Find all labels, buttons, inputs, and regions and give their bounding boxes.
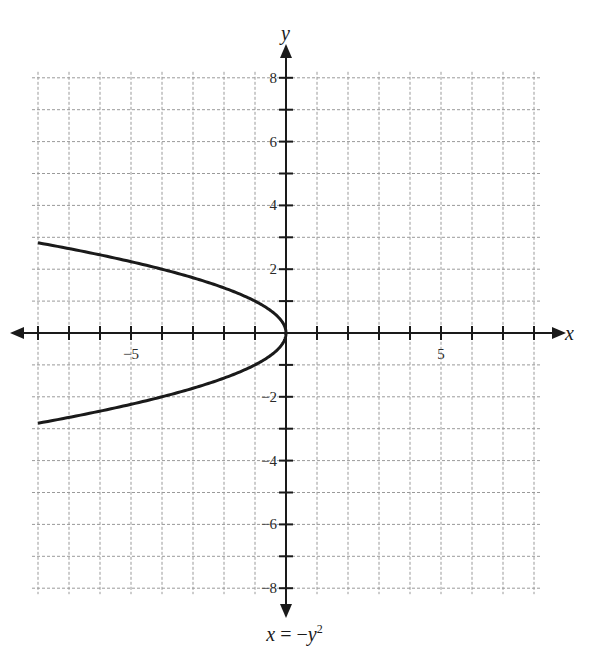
y-axis-down-arrow-icon — [280, 604, 292, 618]
y-tick-label: −2 — [261, 389, 277, 405]
y-tick-label: −8 — [261, 580, 277, 596]
x-tick-label: −5 — [123, 346, 139, 362]
caption-var: y — [308, 623, 317, 645]
x-axis-label: x — [564, 322, 574, 344]
caption-eq: = − — [275, 623, 308, 645]
y-tick-label: 2 — [270, 261, 278, 277]
caption-lhs: x — [266, 623, 275, 645]
caption-exponent: 2 — [317, 622, 323, 636]
axes — [10, 44, 566, 618]
y-axis-up-arrow-icon — [280, 44, 292, 58]
y-tick-label: −6 — [261, 516, 277, 532]
y-tick-label: 4 — [270, 197, 278, 213]
x-tick-label: 5 — [437, 346, 445, 362]
y-axis-label: y — [279, 22, 290, 45]
equation-caption: x = −y2 — [0, 622, 589, 646]
x-axis-left-arrow-icon — [10, 327, 24, 339]
y-tick-label: 8 — [270, 70, 278, 86]
x-axis-right-arrow-icon — [552, 327, 566, 339]
y-tick-label: −4 — [261, 453, 277, 469]
y-tick-label: 6 — [270, 134, 278, 150]
graph-plot: −558642−2−4−6−8 x y — [0, 0, 589, 620]
